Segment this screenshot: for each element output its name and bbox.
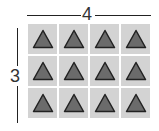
triangle-icon	[63, 29, 85, 49]
triangle-icon	[125, 61, 147, 81]
triangle-icon	[94, 93, 116, 113]
tile	[28, 24, 57, 54]
side-dimension-line-top	[17, 28, 18, 66]
tile	[90, 24, 119, 54]
tile	[28, 88, 57, 118]
triangle-icon	[125, 93, 147, 113]
tile	[59, 56, 88, 86]
triangle-icon	[94, 61, 116, 81]
triangle-icon	[32, 29, 54, 49]
tile-grid	[28, 24, 150, 118]
triangle-icon	[32, 61, 54, 81]
triangle-icon	[63, 93, 85, 113]
tile	[121, 56, 150, 86]
tile	[90, 88, 119, 118]
side-dimension-label: 3	[10, 67, 20, 85]
tile	[121, 24, 150, 54]
top-dimension-line-left	[27, 15, 81, 16]
top-dimension-line-right	[95, 15, 151, 16]
triangle-icon	[32, 93, 54, 113]
top-dimension-label: 4	[82, 5, 92, 23]
side-dimension-line-bottom	[17, 86, 18, 123]
tile	[90, 56, 119, 86]
triangle-icon	[125, 29, 147, 49]
tile	[59, 24, 88, 54]
triangle-icon	[94, 29, 116, 49]
tile	[121, 88, 150, 118]
tile	[59, 88, 88, 118]
tile	[28, 56, 57, 86]
triangle-icon	[63, 61, 85, 81]
